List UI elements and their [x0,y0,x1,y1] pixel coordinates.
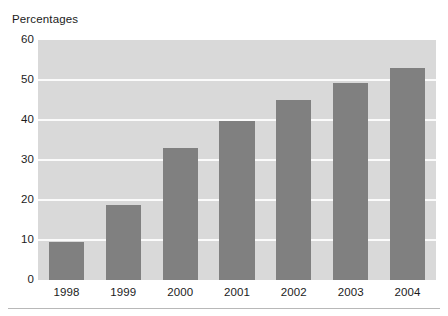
x-tick-label-2004: 2004 [395,286,421,300]
bar-1999 [106,205,141,280]
y-tick-label: 30 [0,154,34,166]
bar-2004 [390,68,425,280]
bar-2003 [333,83,368,280]
y-tick-label: 50 [0,74,34,86]
y-axis: 0102030405060 [0,40,34,280]
y-tick-label: 0 [0,274,34,286]
x-tick-label-2001: 2001 [224,286,250,300]
bars-group [38,40,436,280]
y-tick-label: 20 [0,194,34,206]
bar-chart-figure: Percentages 0102030405060 19981999200020… [0,0,448,316]
x-tick-label-2000: 2000 [167,286,193,300]
x-tick-label-1999: 1999 [110,286,136,300]
y-tick-label: 60 [0,34,34,46]
x-tick-label-1998: 1998 [53,286,79,300]
plot-area [38,40,436,280]
x-tick-label-2002: 2002 [281,286,307,300]
bar-2000 [163,148,198,280]
bar-2001 [219,121,254,280]
x-axis: 1998199920002001200220032004 [38,286,436,302]
footer-divider [8,308,440,309]
bar-1998 [49,242,84,280]
bar-2002 [276,100,311,280]
x-tick-label-2003: 2003 [338,286,364,300]
y-tick-label: 10 [0,234,34,246]
chart-title: Percentages [12,13,78,25]
y-tick-label: 40 [0,114,34,126]
